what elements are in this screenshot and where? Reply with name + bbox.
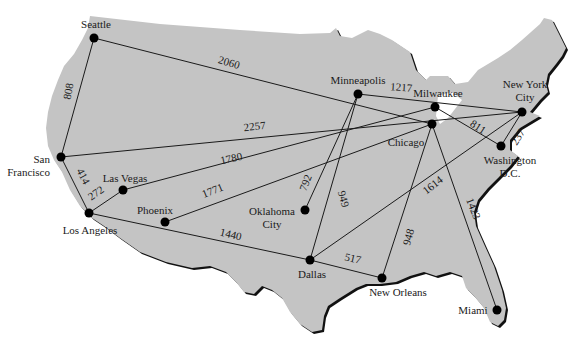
city-label-miami: Miami (458, 304, 487, 316)
city-node-san-francisco (57, 153, 66, 162)
us-city-distance-map: 8082060225741427217801771144079294912178… (0, 0, 588, 347)
city-label-minneapolis: Minneapolis (331, 74, 386, 86)
city-label-las-vegas: Las Vegas (103, 172, 148, 184)
city-node-new-orleans (378, 274, 387, 283)
city-node-minneapolis (354, 90, 363, 99)
city-node-oklahoma-city (301, 206, 310, 215)
city-label-dallas: Dallas (298, 268, 326, 280)
city-node-las-vegas (119, 186, 128, 195)
city-node-dallas (306, 256, 315, 265)
city-label-los-angeles: Los Angeles (63, 224, 118, 236)
city-node-miami (493, 306, 502, 315)
city-node-los-angeles (85, 209, 94, 218)
city-node-washington-dc (497, 142, 506, 151)
city-node-new-york-city (518, 108, 527, 117)
city-label-phoenix: Phoenix (137, 204, 174, 216)
city-node-chicago (428, 120, 437, 129)
city-node-milwaukee (431, 103, 440, 112)
city-node-phoenix (161, 218, 170, 227)
city-label-seattle: Seattle (81, 18, 111, 30)
city-label-new-orleans: New Orleans (369, 286, 427, 298)
distance-label: 1217 (390, 80, 413, 94)
city-node-seattle (90, 34, 99, 43)
distance-label: 2257 (243, 119, 267, 133)
city-label-san-francisco: SanFrancisco (7, 153, 50, 178)
city-label-milwaukee: Milwaukee (413, 87, 463, 99)
city-label-chicago: Chicago (388, 136, 425, 148)
